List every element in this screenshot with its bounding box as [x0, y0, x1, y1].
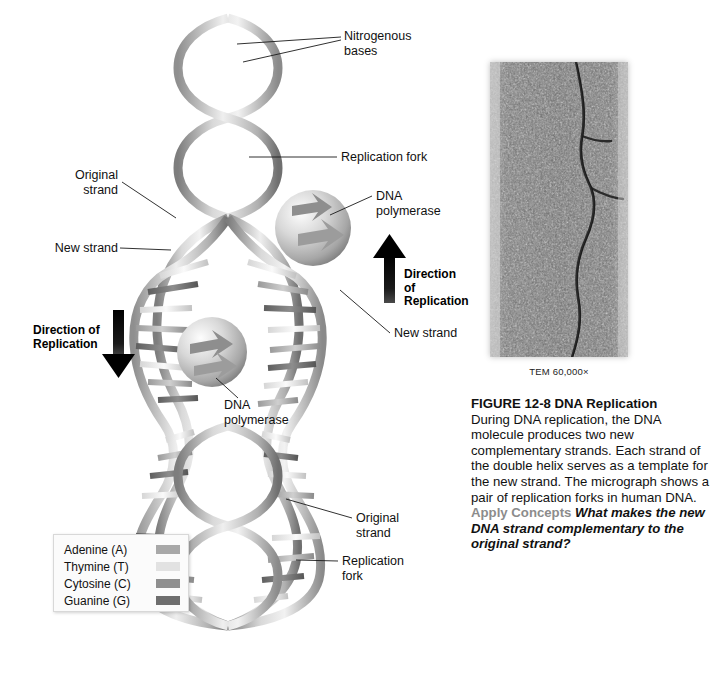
micrograph-and-caption-column: TEM 60,000× FIGURE 12-8 DNA Replication … — [466, 0, 715, 700]
figure-body-text: During DNA replication, the DNA molecule… — [471, 412, 709, 505]
apply-concepts-label: Apply Concepts — [471, 505, 571, 520]
callout-original-strand-bottom: Original strand — [356, 511, 399, 540]
legend-item-thymine: Thymine (T) — [64, 558, 180, 575]
legend-label-guanine: Guanine (G) — [64, 594, 156, 608]
figure-12-8: Nitrogenous bases Replication fork Origi… — [0, 0, 715, 700]
figure-title: DNA Replication — [555, 396, 658, 411]
legend-label-cytosine: Cytosine (C) — [64, 577, 156, 591]
callout-original-strand-left: Original strand — [22, 168, 118, 197]
tem-micrograph — [490, 62, 628, 357]
callout-replication-fork-bottom: Replication fork — [342, 554, 404, 583]
legend-label-adenine: Adenine (A) — [64, 543, 156, 557]
figure-caption: FIGURE 12-8 DNA Replication During DNA r… — [471, 396, 715, 552]
micrograph-magnification-label: TEM 60,000× — [490, 366, 628, 377]
legend-swatch-adenine — [156, 545, 180, 554]
direction-of-replication-label-left: Direction of Replication — [33, 324, 100, 351]
callout-new-strand-right: New strand — [394, 326, 457, 341]
dna-replication-diagram: Nitrogenous bases Replication fork Origi… — [0, 0, 460, 700]
direction-arrow-right — [373, 234, 406, 303]
legend-item-guanine: Guanine (G) — [64, 592, 180, 609]
legend-swatch-guanine — [156, 596, 180, 605]
dna-polymerase-lower-left — [177, 317, 247, 387]
dna-polymerase-upper-right — [275, 190, 351, 266]
micrograph-container — [490, 62, 628, 357]
direction-of-replication-label-right: Direction of Replication — [404, 268, 469, 309]
legend-swatch-cytosine — [156, 579, 180, 588]
base-pair-legend: Adenine (A) Thymine (T) Cytosine (C) Gua… — [53, 534, 189, 612]
legend-item-adenine: Adenine (A) — [64, 541, 180, 558]
callout-nitrogenous-bases: Nitrogenous bases — [344, 29, 411, 58]
legend-item-cytosine: Cytosine (C) — [64, 575, 180, 592]
callout-new-strand-left: New strand — [14, 241, 118, 256]
callout-dna-polymerase-right: DNA polymerase — [376, 189, 460, 218]
callout-replication-fork-top: Replication fork — [341, 150, 427, 165]
legend-label-thymine: Thymine (T) — [64, 560, 156, 574]
callout-dna-polymerase-center: DNA polymerase — [224, 398, 289, 427]
helix-upper — [178, 18, 278, 218]
figure-number: FIGURE 12-8 — [471, 396, 551, 411]
legend-swatch-thymine — [156, 562, 180, 571]
